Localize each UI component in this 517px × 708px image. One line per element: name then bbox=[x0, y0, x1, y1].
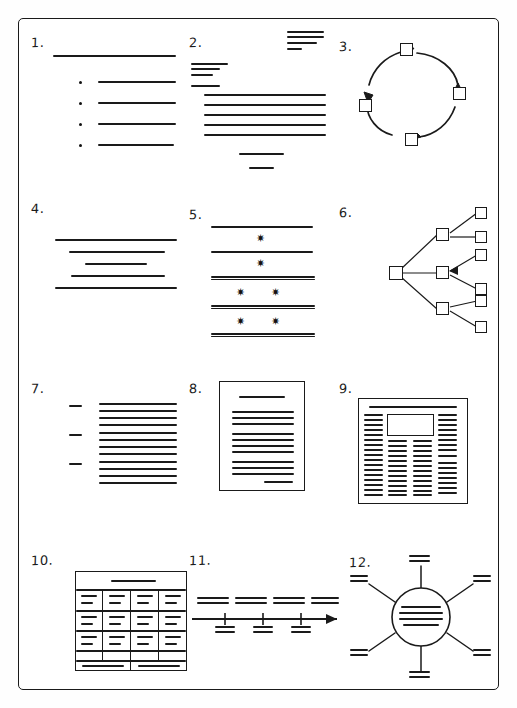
table-cell-rule bbox=[137, 636, 153, 638]
mindmap-center-rule bbox=[403, 624, 439, 626]
table-col-divider bbox=[130, 589, 131, 660]
table-cell-rule bbox=[81, 602, 93, 604]
item-7-labeled-paragraph-layout[interactable]: 7. bbox=[27, 377, 192, 497]
table-cell-rule bbox=[109, 643, 121, 645]
closing-line bbox=[239, 153, 284, 155]
mindmap-center-rule bbox=[399, 618, 443, 620]
star-icon: ✷ bbox=[236, 316, 245, 327]
tree-leaf-node[interactable] bbox=[475, 231, 487, 243]
section-divider bbox=[211, 251, 313, 253]
section-divider bbox=[211, 308, 315, 309]
bullet-dot bbox=[79, 123, 82, 126]
item-7-number: 7. bbox=[31, 381, 45, 396]
table-col-divider bbox=[158, 589, 159, 660]
section-divider bbox=[211, 226, 313, 228]
bullet-dot bbox=[79, 144, 82, 147]
tree-leaf-node[interactable] bbox=[475, 207, 487, 219]
table-cell-rule bbox=[165, 616, 181, 618]
table-cell-rule bbox=[137, 643, 149, 645]
item-1-bulleted-list-layout[interactable]: 1. bbox=[27, 29, 187, 159]
document-page-border[interactable] bbox=[219, 381, 305, 491]
section-divider bbox=[211, 333, 315, 335]
cycle-node[interactable] bbox=[400, 43, 413, 56]
tree-leaf-node[interactable] bbox=[475, 321, 487, 333]
tree-leaf-node[interactable] bbox=[475, 295, 487, 307]
item-10-number: 10. bbox=[31, 553, 54, 568]
worksheet-frame: 1. 2. bbox=[18, 18, 499, 690]
item-12-mind-map-diagram[interactable]: 12. bbox=[347, 549, 497, 684]
table-cell-rule bbox=[137, 623, 149, 625]
table-cell-rule bbox=[109, 623, 121, 625]
table-cell-rule bbox=[81, 616, 97, 618]
newspaper-image-box[interactable] bbox=[387, 414, 434, 436]
table-cell-rule bbox=[81, 636, 97, 638]
tree-branch-node[interactable] bbox=[436, 266, 449, 279]
item-6-tree-hierarchy-diagram[interactable]: 6. bbox=[337, 197, 495, 337]
bullet-line bbox=[98, 102, 176, 104]
section-divider bbox=[211, 305, 315, 307]
item-4-centered-text-layout[interactable]: 4. bbox=[27, 197, 192, 317]
document-title-rule bbox=[239, 396, 285, 398]
item-4-number: 4. bbox=[31, 201, 45, 216]
item-8-single-page-document[interactable]: 8. bbox=[187, 377, 337, 502]
cycle-node[interactable] bbox=[359, 99, 372, 112]
item-11-timeline-diagram[interactable]: 11. bbox=[187, 549, 347, 669]
tree-branch-node[interactable] bbox=[436, 228, 449, 241]
table-cell-rule bbox=[137, 595, 153, 597]
bullet-dot bbox=[79, 81, 82, 84]
tree-connectors bbox=[337, 197, 495, 337]
star-icon: ✷ bbox=[271, 316, 280, 327]
item-3-cycle-diagram[interactable]: 3. bbox=[337, 25, 492, 170]
centered-line bbox=[55, 287, 177, 289]
tree-leaf-node[interactable] bbox=[475, 283, 487, 295]
table-footer-rule bbox=[138, 665, 180, 667]
section-divider bbox=[211, 276, 315, 278]
section-divider bbox=[211, 336, 315, 337]
table-cell-rule bbox=[165, 602, 177, 604]
item-10-table-layout[interactable]: 10. bbox=[27, 549, 197, 679]
table-cell-rule bbox=[137, 602, 149, 604]
cycle-node[interactable] bbox=[405, 133, 418, 146]
table-cell-rule bbox=[137, 616, 153, 618]
signature-line bbox=[249, 167, 274, 169]
item-2-business-letter-layout[interactable]: 2. bbox=[187, 25, 337, 165]
table-cell-rule bbox=[109, 602, 121, 604]
star-icon: ✷ bbox=[256, 233, 265, 244]
mindmap-spokes bbox=[347, 549, 497, 684]
timeline-axis bbox=[187, 605, 347, 645]
table-border[interactable] bbox=[75, 571, 187, 671]
heading-rule bbox=[53, 55, 176, 57]
section-divider bbox=[211, 279, 315, 280]
masthead-rule bbox=[369, 406, 457, 408]
newspaper-page-border[interactable] bbox=[358, 398, 468, 504]
mindmap-center-rule bbox=[399, 612, 443, 614]
centered-line bbox=[71, 275, 165, 277]
table-cell-rule bbox=[165, 623, 177, 625]
table-col-divider bbox=[102, 589, 103, 660]
bullet-line bbox=[98, 81, 176, 83]
cycle-arrows bbox=[337, 25, 492, 170]
item-1-number: 1. bbox=[31, 35, 45, 50]
table-cell-rule bbox=[81, 643, 93, 645]
bullet-line bbox=[98, 123, 176, 125]
item-9-number: 9. bbox=[339, 381, 353, 396]
tree-root-node[interactable] bbox=[389, 266, 403, 280]
table-header-label bbox=[111, 580, 156, 582]
cycle-node[interactable] bbox=[453, 87, 466, 100]
centered-line bbox=[55, 239, 177, 241]
table-footer-divider bbox=[130, 660, 131, 671]
mindmap-center-rule bbox=[401, 606, 441, 608]
side-label bbox=[69, 405, 82, 407]
table-footer-rule bbox=[82, 665, 124, 667]
item-9-newspaper-layout[interactable]: 9. bbox=[337, 377, 495, 507]
centered-line bbox=[69, 251, 165, 253]
table-cell-rule bbox=[109, 636, 125, 638]
document-signature-rule bbox=[264, 481, 293, 483]
side-label bbox=[69, 463, 82, 465]
tree-branch-node[interactable] bbox=[436, 302, 449, 315]
table-cell-rule bbox=[109, 595, 125, 597]
table-cell-rule bbox=[109, 616, 125, 618]
item-5-starred-sections-layout[interactable]: 5. ✷ ✷ ✷ ✷ ✷ ✷ bbox=[187, 197, 337, 337]
item-2-number: 2. bbox=[189, 35, 203, 50]
tree-leaf-node[interactable] bbox=[475, 249, 487, 261]
